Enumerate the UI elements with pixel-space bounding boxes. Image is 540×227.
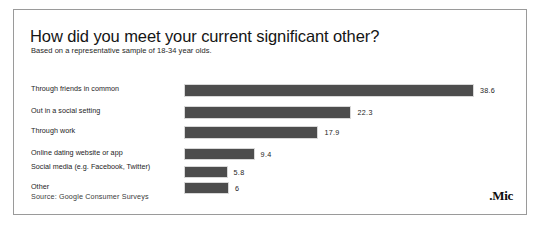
bar-track: 5.8 xyxy=(184,166,522,178)
bar-value-label: 22.3 xyxy=(357,108,372,117)
source-note: Source: Google Consumer Surveys xyxy=(31,192,149,201)
bar-category-label: Through work xyxy=(31,126,181,136)
bar-row: Through friends in common38.6 xyxy=(14,84,526,97)
bar-fill xyxy=(184,148,255,160)
chart-subtitle: Based on a representative sample of 18-3… xyxy=(31,46,212,55)
bar-fill xyxy=(184,84,474,97)
page-title: How did you meet your current significan… xyxy=(30,27,379,46)
bar-track: 6 xyxy=(184,182,522,194)
bar-category-label: Out in a social setting xyxy=(31,106,181,116)
bar-row: Social media (e.g. Facebook, Twitter)5.8 xyxy=(14,166,526,178)
bar-track: 17.9 xyxy=(184,126,522,139)
bar-value-label: 38.6 xyxy=(480,86,495,95)
bar-fill xyxy=(184,166,228,178)
bar-value-label: 17.9 xyxy=(324,128,339,137)
mic-logo: .Mic xyxy=(489,188,513,204)
bar-category-label: Social media (e.g. Facebook, Twitter) xyxy=(31,162,181,172)
bar-chart-plot-area: Through friends in common38.6Out in a so… xyxy=(14,72,526,192)
bar-value-label: 5.8 xyxy=(234,168,245,177)
bar-row: Through work17.9 xyxy=(14,126,526,139)
bar-category-label: Through friends in common xyxy=(31,84,181,94)
bar-fill xyxy=(184,106,351,119)
bar-value-label: 9.4 xyxy=(261,150,272,159)
bar-row: Out in a social setting22.3 xyxy=(14,106,526,119)
bar-fill xyxy=(184,126,318,139)
bar-value-label: 6 xyxy=(235,184,239,193)
bar-track: 9.4 xyxy=(184,148,522,160)
chart-card: How did you meet your current significan… xyxy=(13,9,527,215)
bar-track: 22.3 xyxy=(184,106,522,119)
bar-fill xyxy=(184,182,229,194)
bar-row: Online dating website or app9.4 xyxy=(14,148,526,160)
bar-track: 38.6 xyxy=(184,84,522,97)
bar-category-label: Other xyxy=(31,182,181,192)
bar-category-label: Online dating website or app xyxy=(31,148,181,158)
